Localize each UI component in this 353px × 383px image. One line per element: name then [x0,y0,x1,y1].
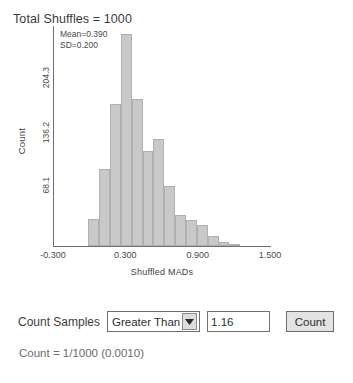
comparison-operator-value: Greater Than [112,316,180,328]
histogram-plot: 68.1136.2204.3 -0.3000.3000.9001.500 Shu… [53,26,271,246]
mean-annotation: Mean=0.390 [60,29,108,40]
histogram-bars [54,26,271,246]
chevron-down-icon[interactable] [182,313,197,330]
x-axis-line [53,246,271,247]
comparison-operator-select[interactable]: Greater Than [107,311,200,332]
histogram-bar [88,219,99,246]
count-samples-controls: Count Samples Greater Than Count [18,311,334,332]
histogram-bar [175,215,186,246]
y-axis-tick: 68.1 [42,177,51,194]
histogram-bar [121,34,132,246]
count-result-text: Count = 1/1000 (0.0010) [19,347,144,359]
x-axis-label: Shuffled MADs [53,267,271,277]
y-axis-tick: 204.3 [42,67,51,88]
y-axis-tick: 136.2 [42,122,51,143]
histogram-bar [153,139,164,246]
sd-annotation: SD=0.200 [60,40,108,51]
stats-annotation: Mean=0.390 SD=0.200 [60,29,108,51]
y-axis-label: Count [16,128,27,154]
count-button[interactable]: Count [286,311,334,332]
x-axis-tick: -0.300 [40,250,66,260]
chart-title: Total Shuffles = 1000 [13,12,132,26]
histogram-bar [186,220,197,246]
threshold-input[interactable] [207,311,270,332]
histogram-bar [164,186,175,246]
x-axis-tick: 0.300 [114,250,137,260]
histogram-bar [132,99,143,246]
histogram-bar [229,244,240,246]
histogram-bar [197,225,208,246]
histogram-bar [208,236,219,246]
count-samples-label: Count Samples [18,315,100,329]
histogram-bar [143,151,154,246]
x-axis-tick: 1.500 [259,250,282,260]
histogram-bar [219,242,230,246]
x-axis-tick: 0.900 [186,250,209,260]
histogram-bar [110,104,121,246]
histogram-bar [99,169,110,246]
